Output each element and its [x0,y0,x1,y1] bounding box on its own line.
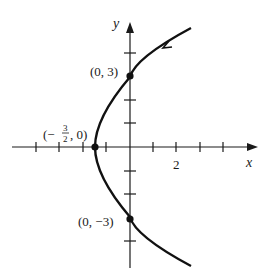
label-point-0-neg3: (0, −3) [78,214,114,229]
label-vertex: (− 3 2 , 0) [43,123,87,144]
point-0-3 [126,72,133,79]
x-axis-arrow-icon [247,143,258,151]
parabola-graph: y x 2 (0, 3) (− 3 2 , 0) (0, −3) [0,0,272,271]
x-tick-label-2: 2 [173,157,180,172]
y-axis-label: y [111,16,120,31]
svg-text:(−: (− [43,127,55,142]
y-axis-arrow-icon [126,22,134,33]
svg-text:3: 3 [63,123,68,133]
x-axis-label: x [245,155,253,170]
point-vertex [91,143,98,150]
svg-text:2: 2 [63,134,68,144]
label-point-0-3: (0, 3) [90,64,118,79]
point-0-neg3 [126,215,133,222]
svg-text:, 0): , 0) [70,127,87,142]
